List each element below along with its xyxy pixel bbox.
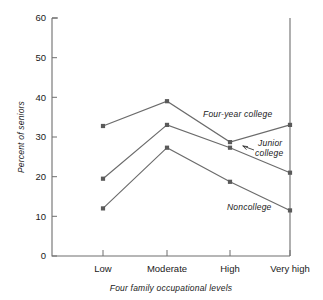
y-tick-label-60: 60 [35,12,46,23]
y-tick-label-30: 30 [35,131,46,142]
y-tick-label-0: 0 [41,250,46,261]
data-point [228,140,232,144]
annotation-junior-college-line1: Junior [257,138,283,148]
data-point [288,171,292,175]
x-axis-tick-labels: Low Moderate High Very high [94,263,310,274]
line-chart: 0 10 20 30 40 50 60 Low Moderate High Ve… [0,0,323,300]
data-point [165,123,169,127]
x-axis-ticks [103,250,290,256]
data-point [101,177,105,181]
data-point [165,99,169,103]
y-axis-title: Percent of seniors [16,100,26,173]
x-axis-title: Four family occupational levels [110,283,233,293]
data-point [165,146,169,150]
y-tick-label-20: 20 [35,171,46,182]
y-tick-label-50: 50 [35,52,46,63]
chart-figure: 0 10 20 30 40 50 60 Low Moderate High Ve… [0,0,323,300]
y-tick-label-40: 40 [35,92,46,103]
junior-college-leader-arrow [243,146,254,150]
y-axis-tick-labels: 0 10 20 30 40 50 60 [35,12,46,261]
data-point [288,123,292,127]
annotation-junior-college-line2: college [255,148,283,158]
data-point [101,206,105,210]
x-tick-label-very-high: Very high [270,263,310,274]
data-point [228,180,232,184]
annotation-noncollege: Noncollege [227,202,272,212]
data-point [288,208,292,212]
data-point [228,146,232,150]
chart-axes [52,18,290,256]
data-point [101,124,105,128]
x-tick-label-high: High [220,263,240,274]
x-tick-label-moderate: Moderate [147,263,187,274]
y-tick-label-10: 10 [35,211,46,222]
annotation-four-year-college: Four-year college [203,109,272,119]
x-tick-label-low: Low [94,263,112,274]
y-axis-ticks [52,18,57,256]
